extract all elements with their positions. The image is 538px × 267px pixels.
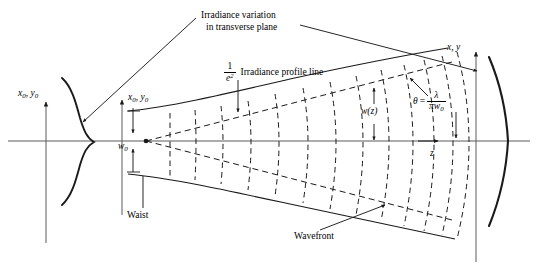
right-axis-xy: x, y xyxy=(447,42,460,52)
beam-envelope-lower xyxy=(128,174,455,239)
z-axis-symbol: z xyxy=(430,148,434,158)
right-axis-label: x, y xyxy=(447,42,460,54)
irradiance-profile-line-text: Irradiance profile line xyxy=(241,67,324,79)
beam-radius-label: w(z) xyxy=(361,106,377,118)
z-axis-label: z xyxy=(430,148,434,160)
irradiance-variation-line1: Irradiance variation xyxy=(201,10,276,20)
left-axis-label: x0, y0 xyxy=(18,88,38,100)
theta-equals: = xyxy=(420,96,425,108)
irradiance-variation-leader-left xyxy=(83,18,196,122)
irradiance-profile-line-label: 1 e2 Irradiance profile line xyxy=(224,62,323,84)
wavefront-arc xyxy=(442,56,453,235)
wavefront-arc xyxy=(221,106,223,184)
waist-vertex-point xyxy=(144,139,149,144)
diagram-canvas xyxy=(0,0,538,267)
waist-axis-y-sub: 0 xyxy=(145,96,149,104)
theta-denominator: πw0 xyxy=(427,101,446,113)
fraction-denominator-exponent: 2 xyxy=(230,72,233,79)
theta-fraction: λ πw0 xyxy=(427,91,446,113)
beam-radius-symbol: w(z) xyxy=(361,106,377,116)
wavefront-label: Wavefront xyxy=(294,231,334,243)
waist-radius-dimension xyxy=(127,108,140,172)
fraction-numerator: 1 xyxy=(224,62,236,72)
one-over-e-squared-fraction: 1 e2 xyxy=(224,62,236,84)
waist-label: Waist xyxy=(127,210,148,222)
gaussian-beam-figure: Irradiance variation in transverse plane… xyxy=(0,0,538,267)
divergence-angle-label: θ = λ πw0 xyxy=(413,91,446,113)
wavefront-arc xyxy=(195,110,196,180)
fraction-denominator: e2 xyxy=(224,72,236,84)
wavefront-arc xyxy=(404,65,413,226)
waist-radius-label: w0 xyxy=(118,141,128,153)
wavefront-arc xyxy=(275,94,279,196)
wavefront-arc xyxy=(381,70,389,221)
theta-symbol: θ xyxy=(413,96,418,108)
theta-denominator-sub: 0 xyxy=(440,105,444,113)
waist-radius-sub: 0 xyxy=(124,145,128,153)
irradiance-variation-label: Irradiance variation in transverse plane xyxy=(201,10,277,33)
waist-axis-label: x0, y0 xyxy=(128,92,148,104)
wavefront-arc xyxy=(457,52,469,239)
irradiance-variation-line2: in transverse plane xyxy=(201,22,277,32)
left-axis-y-sub: 0 xyxy=(35,92,39,100)
theta-numerator-lambda: λ xyxy=(427,91,446,101)
wavefront-arc xyxy=(424,60,434,231)
wavefront-arc xyxy=(303,88,308,203)
wavefront-arc xyxy=(356,76,363,215)
